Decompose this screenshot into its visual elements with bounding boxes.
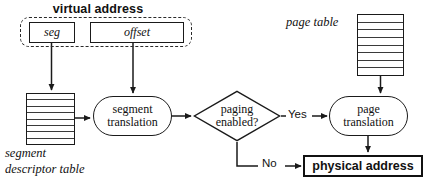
edge-label-yes: Yes <box>288 108 307 120</box>
table-row <box>358 53 403 61</box>
segment-descriptor-table-label-line1: segment <box>5 146 125 162</box>
seg-field-box: seg <box>29 22 75 43</box>
diagram-canvas: virtual address seg offset segment descr… <box>0 0 438 185</box>
page-translation-node: page translation <box>329 96 408 136</box>
segment-translation-node: segment translation <box>93 96 172 136</box>
page-table <box>357 14 404 76</box>
page-translation-label: page translation <box>343 103 394 130</box>
edge-paging-enabled-no-path <box>237 142 258 166</box>
table-row <box>27 139 74 144</box>
segment-descriptor-table-label: segment descriptor table <box>5 146 125 177</box>
table-row <box>358 61 403 69</box>
segment-translation-label-line1: segment <box>107 103 158 116</box>
table-row <box>358 46 403 54</box>
table-row <box>358 30 403 38</box>
page-table-label: page table <box>286 15 338 30</box>
paging-enabled-label-line2: enabled? <box>216 116 259 129</box>
segment-translation-label: segment translation <box>107 103 158 130</box>
physical-address-node: physical address <box>303 155 423 177</box>
segment-translation-label-line2: translation <box>107 116 158 129</box>
offset-field-box: offset <box>90 22 184 43</box>
segment-descriptor-table <box>26 93 75 145</box>
paging-enabled-decision: paging enabled? <box>193 90 281 142</box>
table-row <box>358 68 403 75</box>
virtual-address-title: virtual address <box>0 2 196 16</box>
paging-enabled-label: paging enabled? <box>216 103 259 130</box>
table-row <box>358 38 403 46</box>
table-row <box>358 15 403 23</box>
edge-label-no: No <box>262 157 277 169</box>
page-translation-label-line2: translation <box>343 116 394 129</box>
segment-descriptor-table-label-line2: descriptor table <box>5 162 125 178</box>
table-row <box>358 23 403 31</box>
paging-enabled-label-line1: paging <box>216 103 259 116</box>
page-translation-label-line1: page <box>343 103 394 116</box>
